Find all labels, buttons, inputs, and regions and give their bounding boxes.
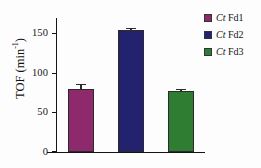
y-axis-title-end: ) xyxy=(13,38,27,42)
y-tick-label-100: 100 xyxy=(32,68,48,79)
error-bar-cap-fd3 xyxy=(176,89,186,90)
legend-label-fd3: Ct Fd3 xyxy=(216,47,244,57)
legend-label-fd1: Ct Fd1 xyxy=(216,13,244,23)
legend: Ct Fd1Ct Fd2Ct Fd3 xyxy=(204,11,261,62)
bar-fd1 xyxy=(68,89,94,152)
bar-fd2 xyxy=(118,30,144,152)
legend-swatch-fd2 xyxy=(204,31,212,39)
bar-chart-figure: TOF (min-1) 0 50 100 150 Ct Fd1Ct Fd2Ct … xyxy=(0,0,261,168)
error-bar-cap-fd2 xyxy=(126,28,136,29)
error-bar-stem-fd3 xyxy=(180,90,181,92)
y-tick-label-0: 0 xyxy=(43,147,48,158)
error-bar-stem-fd2 xyxy=(130,29,131,31)
legend-item-fd3[interactable]: Ct Fd3 xyxy=(204,45,261,59)
plot-area xyxy=(56,18,206,152)
legend-swatch-fd1 xyxy=(204,14,212,22)
y-tick-label-50: 50 xyxy=(37,107,48,118)
legend-item-fd1[interactable]: Ct Fd1 xyxy=(204,11,261,25)
legend-swatch-fd3 xyxy=(204,48,212,56)
y-tick-label-150: 150 xyxy=(32,28,48,39)
error-bar-stem-fd1 xyxy=(80,85,81,90)
y-axis-title-base: TOF (min xyxy=(13,49,27,99)
error-bar-cap-fd1 xyxy=(76,84,86,85)
legend-label-fd2: Ct Fd2 xyxy=(216,30,244,40)
y-axis-title: TOF (min-1) xyxy=(14,19,27,119)
legend-item-fd2[interactable]: Ct Fd2 xyxy=(204,28,261,42)
y-axis-title-exponent: -1 xyxy=(11,42,20,49)
bar-fd3 xyxy=(168,91,194,152)
